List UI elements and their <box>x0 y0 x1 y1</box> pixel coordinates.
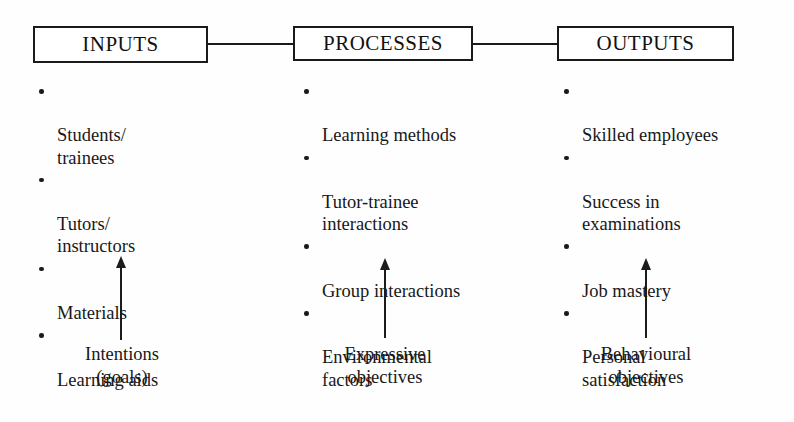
list-item: Tutors/ instructors <box>38 169 253 258</box>
up-arrow-icon-processes <box>377 258 393 338</box>
list-item: Students/ trainees <box>38 80 253 169</box>
connector-inputs-to-processes <box>207 43 295 45</box>
bullet-dot-icon <box>39 333 44 338</box>
list-item: Tutor-trainee interactions <box>303 147 538 236</box>
bullet-dot-icon <box>304 311 309 316</box>
list-item-label: Students/ trainees <box>57 125 126 167</box>
stage-box-processes-label: PROCESSES <box>323 33 443 54</box>
arrow-shaft <box>645 267 647 338</box>
list-item: Success in examinations <box>563 147 788 236</box>
list-item: Materials <box>38 258 253 325</box>
arrow-shaft <box>120 265 122 340</box>
list-item-label: Tutors/ instructors <box>57 214 135 256</box>
bullet-dot-icon <box>564 311 569 316</box>
list-item: Group interactions <box>303 235 538 302</box>
bullet-dot-icon <box>564 244 569 249</box>
bullet-dot-icon <box>39 267 44 272</box>
list-item-label: Success in examinations <box>582 192 681 234</box>
caption-inputs: Intentions (goals) <box>42 343 202 388</box>
bullet-dot-icon <box>304 244 309 249</box>
bullet-dot-icon <box>39 89 44 94</box>
bullet-dot-icon <box>39 178 44 183</box>
stage-box-outputs-label: OUTPUTS <box>596 33 694 54</box>
bullet-dot-icon <box>564 156 569 161</box>
bullet-dot-icon <box>564 89 569 94</box>
up-arrow-icon-outputs <box>638 258 654 338</box>
stage-box-inputs: INPUTS <box>33 26 208 63</box>
list-item: Learning methods <box>303 80 538 147</box>
bullet-dot-icon <box>304 89 309 94</box>
bullet-dot-icon <box>304 156 309 161</box>
list-item-label: Job mastery <box>582 281 671 301</box>
list-item-label: Learning methods <box>322 125 456 145</box>
up-arrow-icon-inputs <box>113 256 129 340</box>
process-flow-diagram: INPUTS PROCESSES OUTPUTS Students/ train… <box>0 0 794 422</box>
list-item-label: Tutor-trainee interactions <box>322 192 419 234</box>
list-item: Job mastery <box>563 235 788 302</box>
connector-processes-to-outputs <box>471 43 559 45</box>
list-item-label: Skilled employees <box>582 125 718 145</box>
caption-outputs: Behavioural objectives <box>566 343 726 388</box>
stage-box-inputs-label: INPUTS <box>82 34 159 55</box>
stage-box-processes: PROCESSES <box>293 26 473 61</box>
arrow-shaft <box>384 267 386 338</box>
stage-box-outputs: OUTPUTS <box>557 26 734 61</box>
caption-processes: Expressive objectives <box>305 343 465 388</box>
list-item: Skilled employees <box>563 80 788 147</box>
